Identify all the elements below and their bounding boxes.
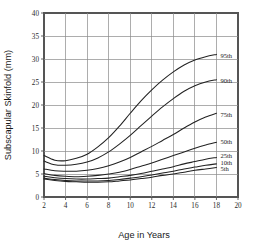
- y-axis-tick-labels: 0510152025303540: [32, 10, 40, 202]
- x-axis-tick-labels: 2468101214161820: [42, 202, 242, 210]
- x-tick-label: 2: [42, 202, 46, 210]
- y-tick-label: 40: [32, 10, 40, 18]
- percentile-label-95th: 95th: [220, 52, 232, 59]
- percentile-label-90th: 90th: [220, 77, 232, 84]
- y-tick-label: 30: [32, 56, 40, 64]
- x-tick-label: 20: [234, 202, 242, 210]
- x-tick-label: 14: [170, 202, 178, 210]
- chart-canvas: 0510152025303540 2468101214161820 95th90…: [0, 0, 256, 247]
- x-tick-label: 6: [85, 202, 89, 210]
- y-axis-title: Subscapular Skinfold (mm): [3, 50, 13, 160]
- percentile-label-5th: 5th: [220, 165, 229, 172]
- y-tick-label: 0: [35, 194, 39, 202]
- x-tick-label: 4: [64, 202, 68, 210]
- y-tick-label: 25: [32, 79, 40, 87]
- x-tick-label: 12: [148, 202, 156, 210]
- y-tick-label: 20: [32, 102, 40, 110]
- skinfold-percentile-chart: 0510152025303540 2468101214161820 95th90…: [0, 0, 256, 247]
- y-tick-label: 15: [32, 125, 40, 133]
- x-tick-label: 16: [191, 202, 199, 210]
- x-axis-title: Age in Years: [118, 230, 170, 240]
- percentile-label-75th: 75th: [220, 111, 232, 118]
- x-tick-label: 8: [107, 202, 111, 210]
- x-tick-label: 18: [213, 202, 221, 210]
- percentile-label-50th: 50th: [220, 138, 232, 145]
- y-tick-label: 10: [32, 148, 40, 156]
- y-tick-label: 5: [35, 171, 39, 179]
- y-tick-label: 35: [32, 33, 40, 41]
- x-tick-label: 10: [127, 202, 135, 210]
